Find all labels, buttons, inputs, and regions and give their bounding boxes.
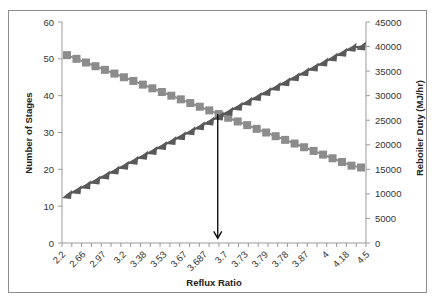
y-tick-label: 30 <box>43 127 54 138</box>
stages-marker <box>300 143 308 151</box>
x-axis-title: Reflux Ratio <box>186 277 242 288</box>
y2-tick-label: 35000 <box>375 66 401 77</box>
x-tick-label: 3.38 <box>128 249 149 270</box>
annotations <box>214 114 222 238</box>
duty-marker <box>157 141 167 150</box>
duty-marker <box>71 185 81 194</box>
duty-marker <box>90 175 100 184</box>
x-tick-label: 3.73 <box>229 249 250 270</box>
duty-marker <box>62 190 72 199</box>
stages-marker <box>196 103 204 111</box>
y2-tick-label: 5000 <box>375 213 396 224</box>
series-group <box>62 42 366 200</box>
duty-marker <box>347 43 357 52</box>
x-tick-label: 2.97 <box>87 249 108 270</box>
stages-marker <box>110 70 118 78</box>
stages-marker <box>310 147 318 155</box>
y2-tick-label: 15000 <box>375 164 401 175</box>
y-tick-label: 40 <box>43 90 54 101</box>
stages-marker <box>72 55 80 63</box>
duty-marker <box>337 48 347 57</box>
y-axis-title: Number of Stages <box>23 92 34 173</box>
duty-marker <box>204 116 214 125</box>
stages-marker <box>234 117 242 125</box>
x-tick-label: 3.78 <box>269 249 290 270</box>
stages-marker <box>319 151 327 159</box>
stages-marker <box>158 88 166 96</box>
stages-marker <box>139 81 147 89</box>
x-tick-label: 3.687 <box>185 249 210 274</box>
stages-marker <box>253 125 261 133</box>
stages-marker <box>243 121 251 129</box>
stages-marker <box>357 163 365 171</box>
duty-marker <box>128 156 138 165</box>
axes: 0102030405060050001000015000200002500030… <box>43 17 401 274</box>
duty-marker <box>252 92 262 101</box>
stages-marker <box>82 59 90 67</box>
x-tick-label: 3.2 <box>111 249 128 266</box>
stages-marker <box>63 51 71 59</box>
y-tick-label: 20 <box>43 164 54 175</box>
duty-marker <box>299 67 309 76</box>
y2-tick-label: 20000 <box>375 139 401 150</box>
stages-marker <box>272 132 280 140</box>
duty-marker <box>176 131 186 140</box>
x-tick-label: 2.2 <box>50 249 67 266</box>
x-tick-label: 3.79 <box>249 249 270 270</box>
duty-marker <box>271 82 281 91</box>
duty-marker <box>261 87 271 96</box>
stages-marker <box>91 62 99 70</box>
y2-tick-label: 30000 <box>375 90 401 101</box>
duty-marker <box>223 107 233 116</box>
duty-marker <box>318 58 328 67</box>
y2-tick-label: 25000 <box>375 115 401 126</box>
duty-marker <box>81 180 91 189</box>
duty-marker <box>242 97 252 106</box>
duty-marker <box>309 62 319 71</box>
chart-svg: 0102030405060050001000015000200002500030… <box>0 0 436 299</box>
duty-marker <box>138 151 148 160</box>
duty-marker <box>233 102 243 111</box>
y2-tick-label: 0 <box>375 238 380 249</box>
y2-axis-title: Reboiler Duty (MJ/hr) <box>414 80 425 176</box>
y2-tick-label: 45000 <box>375 17 401 28</box>
stages-marker <box>291 140 299 148</box>
stages-marker <box>262 129 270 137</box>
x-tick-label: 2.66 <box>67 249 88 270</box>
stages-marker <box>186 99 194 107</box>
stages-marker <box>329 154 337 162</box>
duty-marker <box>280 77 290 86</box>
x-tick-label: 3.53 <box>148 249 169 270</box>
duty-marker <box>185 126 195 135</box>
stages-marker <box>129 77 137 85</box>
y-tick-label: 60 <box>43 17 54 28</box>
duty-marker <box>119 161 129 170</box>
y-tick-label: 50 <box>43 53 54 64</box>
duty-marker <box>195 121 205 130</box>
stages-marker <box>205 106 213 114</box>
y-tick-label: 10 <box>43 201 54 212</box>
duty-marker <box>109 166 119 175</box>
stages-marker <box>167 92 175 100</box>
stages-marker <box>148 84 156 92</box>
stages-marker <box>177 95 185 103</box>
stages-marker <box>338 158 346 166</box>
x-tick-label: 4.5 <box>354 249 371 266</box>
duty-marker <box>147 146 157 155</box>
y-tick-label: 0 <box>49 238 54 249</box>
stages-marker <box>120 73 128 81</box>
stages-marker <box>281 136 289 144</box>
x-tick-label: 3.7 <box>212 249 229 266</box>
stages-marker <box>101 66 109 74</box>
y2-tick-label: 10000 <box>375 188 401 199</box>
stages-marker <box>348 162 356 170</box>
duty-marker <box>100 170 110 179</box>
x-tick-label: 4 <box>319 249 331 261</box>
duty-marker <box>290 72 300 81</box>
y2-tick-label: 40000 <box>375 41 401 52</box>
x-tick-label: 4.18 <box>330 249 351 270</box>
duty-marker <box>328 53 338 62</box>
x-tick-label: 3.87 <box>290 249 311 270</box>
duty-marker <box>166 136 176 145</box>
